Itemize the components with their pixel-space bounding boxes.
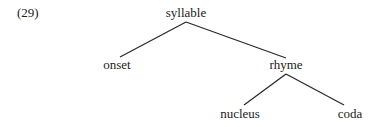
branch-syllable-onset <box>120 22 186 57</box>
node-rhyme: rhyme <box>269 58 302 72</box>
branch-rhyme-nucleus <box>244 74 286 105</box>
node-syllable: syllable <box>166 6 206 20</box>
node-onset: onset <box>103 58 130 72</box>
node-coda: coda <box>338 107 363 121</box>
branch-rhyme-coda <box>286 74 344 105</box>
branch-syllable-rhyme <box>186 22 286 58</box>
node-nucleus: nucleus <box>220 107 260 121</box>
